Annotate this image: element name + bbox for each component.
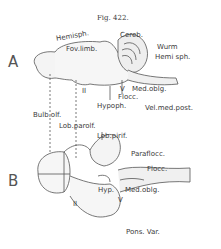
label-fov-limb: Fov.limb. [66, 45, 97, 53]
label-roman-five-a: V [120, 85, 125, 93]
label-vel-med-post: Vel.med.post. [145, 104, 193, 112]
label-med-oblg-b: Med.oblg. [125, 186, 159, 194]
label-lob-parolf: Lob.parolf. [59, 122, 96, 130]
label-hyp: Hyp. [98, 186, 114, 194]
cerebellum-a [118, 34, 148, 72]
label-hypoph: Hypoph. [97, 102, 126, 110]
label-med-oblg-a: Med.oblg. [132, 85, 166, 93]
label-roman-two-b: II [73, 200, 77, 208]
label-pons-var: Pons. Var. [126, 228, 160, 236]
panel-letter-a: A [8, 58, 18, 66]
panel-letter-b: B [8, 177, 18, 185]
olfactory-bulb-b [38, 152, 70, 193]
label-flocc-b: Flocc. [147, 165, 167, 173]
label-lob-pirif: Lob.pirif. [97, 132, 127, 140]
label-roman-two-a: II [82, 87, 86, 95]
label-wurm: Wurm [157, 43, 178, 51]
hemisphere-b-lower [70, 176, 120, 217]
brain-illustration [0, 0, 221, 249]
label-hemisph-cereb: Hemi sph. [155, 53, 190, 61]
label-flocc-a: Flocc. [118, 93, 138, 101]
figure-title: Fig. 422. [97, 14, 129, 22]
label-bulb-olf: Bulb.olf. [33, 111, 61, 119]
label-roman-five-b: V [118, 196, 123, 204]
hemisphere-b-upper [64, 145, 90, 152]
label-cereb: Cereb. [120, 31, 143, 39]
label-paraflocc: Paraflocc. [131, 150, 165, 158]
